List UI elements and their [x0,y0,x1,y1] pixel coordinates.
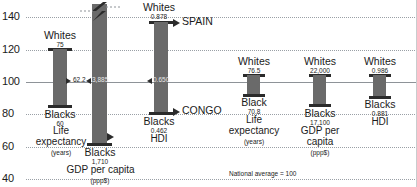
g4-metric-unit: (years) [228,138,280,145]
g6-lower-label: Blacks [354,99,406,110]
g2-congo-pointer-icon [107,133,114,141]
g5-metric-line1: GDP per [292,126,348,137]
g6-upper-value: 0.986 [354,67,406,74]
g5-metric-line2: capita [292,137,348,148]
g4-metric-line2: expectancy [218,126,290,137]
axis-break-icon [80,0,120,22]
g3-callout-spain: SPAIN [182,16,213,27]
g5-upper-value: 22,000 [292,67,348,74]
y-tick-120: 120 [2,43,20,55]
y-tick-140: 140 [2,10,20,22]
g4-metric-line1: Life [228,115,280,126]
g3-spain-pointer-icon [173,19,180,27]
g6-upper-label: Whites [354,56,406,67]
g1-upper-label: Whites [33,30,87,41]
y-tick-100: 100 [2,75,20,87]
gridline-120 [26,50,417,51]
g1-upper-value: 75 [33,41,87,48]
g5-upper-label: Whites [292,56,348,67]
g2-metric-unit: (ppp$) [72,177,128,184]
y-tick-40: 40 [2,172,14,184]
g1-national-value: 62.2 [73,76,86,83]
g3-lower-label: Blacks [134,116,184,127]
g3-congo-pointer-icon [173,108,180,116]
g3-bar [154,22,168,113]
g1-metric-line1: Life [31,126,91,137]
y-tick-60: 60 [2,140,14,152]
chart-container: 140 120 100 80 60 40 Whites 75 Blacks 60… [0,0,417,187]
g4-upper-label: Whites [228,56,280,67]
g6-metric-line1: HDI [354,117,406,128]
g3-national-marker-icon [147,78,152,84]
g1-lower-label: Blacks [33,109,87,120]
g3-national-value: 0.650 [153,76,169,83]
g4-upper-value: 76.5 [228,67,280,74]
g4-lower-label: Black [228,97,280,108]
g2-metric-line1: GDP per capita [58,165,143,176]
g5-metric-unit: (ppp$) [292,149,348,156]
g2-lower-label: Blacks [72,147,128,158]
g2-national-value: 3,885 [92,76,108,83]
g5-bar [313,75,326,105]
g3-metric-line1: HDI [134,134,184,145]
g6-bar [373,75,386,97]
g1-national-marker-icon [66,78,71,84]
chart-footnote: National average = 100 [229,170,296,177]
g2-national-marker-icon [86,78,91,84]
g5-lower-label: Blacks [292,108,348,119]
g3-upper-label: Whites [134,2,184,13]
y-tick-80: 80 [2,107,14,119]
g2-bar [92,4,107,144]
g4-bar [247,75,260,95]
g3-callout-congo: CONGO [182,105,222,116]
g1-bar [53,49,67,106]
